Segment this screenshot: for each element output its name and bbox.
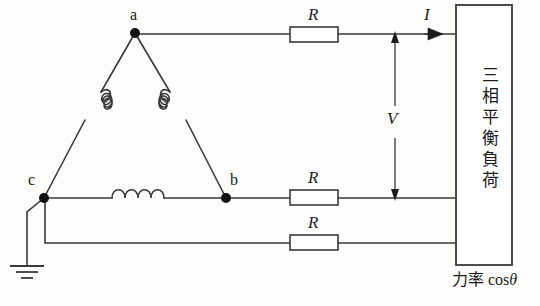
feeder-line-c bbox=[45, 198, 456, 243]
ground-connection bbox=[10, 198, 44, 278]
phase-winding-cb bbox=[44, 190, 226, 198]
power-factor-symbol: θ bbox=[509, 271, 517, 288]
node-label-b: b bbox=[230, 172, 238, 188]
current-label: I bbox=[424, 6, 430, 23]
resistor-label-c: R bbox=[308, 214, 318, 231]
resistor-label-a: R bbox=[308, 6, 318, 23]
circuit-diagram-svg bbox=[0, 0, 540, 306]
node-c-dot bbox=[39, 193, 49, 203]
load-box-label: 三相平衡負荷 bbox=[466, 66, 502, 192]
phase-winding-ac bbox=[44, 33, 135, 198]
power-factor-prefix: 力率 bbox=[452, 270, 484, 289]
current-arrow-I bbox=[424, 28, 443, 40]
voltage-label: V bbox=[387, 110, 397, 127]
resistor-b bbox=[290, 190, 338, 205]
node-label-a: a bbox=[130, 7, 137, 23]
resistor-c bbox=[290, 235, 338, 250]
node-a-dot bbox=[130, 28, 140, 38]
resistor-label-b: R bbox=[308, 169, 318, 186]
power-factor-label: 力率 cosθ bbox=[452, 272, 517, 288]
node-b-dot bbox=[221, 193, 231, 203]
diagram-canvas: a b c R R R I V 三相平衡負荷 力率 cosθ bbox=[0, 0, 540, 306]
node-label-c: c bbox=[28, 172, 35, 188]
resistor-a bbox=[290, 27, 338, 42]
phase-winding-ab bbox=[135, 33, 226, 198]
power-factor-expression: cos bbox=[488, 271, 509, 288]
